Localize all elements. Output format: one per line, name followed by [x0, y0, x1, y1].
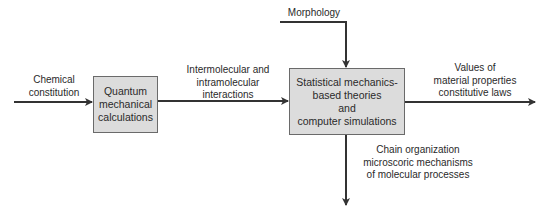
node-line: based theories: [313, 89, 382, 102]
label-line: material properties: [420, 75, 530, 88]
label-line: Values of: [420, 62, 530, 75]
label-line: Intermolecular and: [178, 64, 278, 77]
node-line: Quantum: [104, 85, 147, 98]
label-line: interactions: [178, 89, 278, 102]
chemical-constitution-label: Chemical constitution: [20, 74, 88, 99]
chain-organization-label: Chain organization microscoric mechanism…: [350, 144, 486, 182]
quantum-calculations-node: Quantum mechanical calculations: [93, 76, 158, 133]
label-line: microscoric mechanisms: [350, 157, 486, 170]
label-line: of molecular processes: [350, 169, 486, 182]
label-line: Chain organization: [350, 144, 486, 157]
label-line: constitution: [20, 87, 88, 100]
values-label: Values of material properties constituti…: [420, 62, 530, 100]
arrow-morphology-to-statistical: [280, 22, 346, 67]
morphology-label: Morphology: [282, 7, 346, 20]
label-line: Chemical: [20, 74, 88, 87]
label-line: constitutive laws: [420, 87, 530, 100]
statistical-mechanics-node: Statistical mechanics- based theories an…: [289, 68, 405, 135]
node-line: and: [338, 102, 356, 115]
label-line: Morphology: [282, 7, 346, 20]
connector-layer: [0, 0, 554, 214]
node-line: computer simulations: [297, 115, 396, 128]
node-line: calculations: [98, 111, 153, 124]
label-line: intramolecular: [178, 77, 278, 90]
node-line: mechanical: [99, 98, 152, 111]
node-line: Statistical mechanics-: [296, 76, 398, 89]
interactions-label: Intermolecular and intramolecular intera…: [178, 64, 278, 102]
